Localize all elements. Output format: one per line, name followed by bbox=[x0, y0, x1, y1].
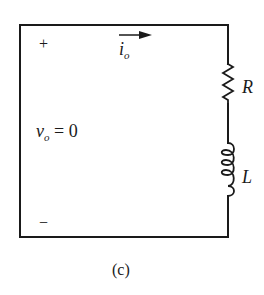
inductor-label: L bbox=[242, 168, 252, 186]
current-arrow-icon bbox=[119, 31, 152, 39]
voltage-equation-value: = 0 bbox=[50, 121, 78, 141]
current-subscript: o bbox=[124, 49, 130, 61]
resistor-symbol bbox=[223, 64, 233, 104]
resistor-label: R bbox=[242, 78, 253, 96]
voltage-symbol: v bbox=[36, 121, 44, 141]
plus-terminal-label: + bbox=[39, 36, 48, 52]
figure-caption: (c) bbox=[112, 262, 130, 278]
minus-terminal-label: − bbox=[39, 215, 48, 231]
current-label: io bbox=[119, 40, 130, 58]
voltage-subscript: o bbox=[44, 131, 50, 143]
inductor-symbol bbox=[222, 143, 234, 196]
voltage-equation: vo = 0 bbox=[36, 122, 78, 140]
